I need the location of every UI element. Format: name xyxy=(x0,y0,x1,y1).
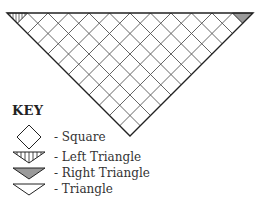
square-diamond-icon xyxy=(0,124,54,150)
key-title: KEY xyxy=(12,103,43,118)
left-corner-triangle xyxy=(7,13,28,23)
right-corner-triangle xyxy=(233,13,254,23)
key-label-triangle: - Triangle xyxy=(54,182,113,196)
key-item-square: - Square xyxy=(0,124,260,144)
triangle-outline-icon xyxy=(0,183,54,197)
right-triangle-filled-icon xyxy=(0,167,54,181)
key-label-right-triangle: - Right Triangle xyxy=(54,166,150,180)
key-item-triangle: - Triangle xyxy=(0,183,260,203)
key-label-left-triangle: - Left Triangle xyxy=(54,150,141,164)
left-triangle-hatched-icon xyxy=(0,151,54,165)
key-label-square: - Square xyxy=(54,130,106,144)
